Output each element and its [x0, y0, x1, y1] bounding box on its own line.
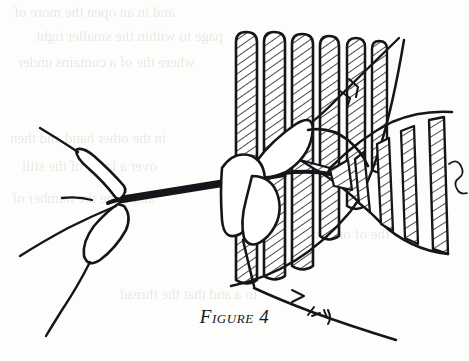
- cord-right-tail: [284, 172, 330, 174]
- cord-left-tail: [108, 200, 118, 203]
- figure-page: and in an open the more ofpage to within…: [0, 0, 469, 361]
- left-hand-side-finger: [62, 197, 92, 200]
- fan-bar-3: [377, 138, 393, 231]
- left-hand-group: [20, 128, 129, 336]
- left-hand-finger-edge-upper: [40, 128, 78, 152]
- thread-squiggle-icon: [449, 161, 467, 193]
- comb-rod-4: [320, 36, 339, 240]
- fan-bar-5: [429, 117, 448, 254]
- figure-caption: Figure 4: [0, 306, 469, 328]
- fan-bar-4: [401, 126, 418, 244]
- left-hand-finger-thumb: [84, 204, 129, 263]
- left-hand-finger-index: [76, 149, 125, 199]
